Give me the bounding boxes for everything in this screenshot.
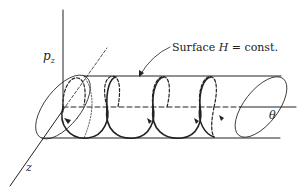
pz-axis-label: pz: [43, 49, 56, 65]
z-axis-label: z: [25, 161, 32, 174]
theta-axis-label: θ: [269, 109, 276, 122]
surface-pointer-line: [140, 47, 170, 75]
surface-label: Surface H = const.: [172, 41, 278, 54]
phase-space-cylinder-diagram: pz Surface H = const. θ z: [0, 0, 306, 193]
